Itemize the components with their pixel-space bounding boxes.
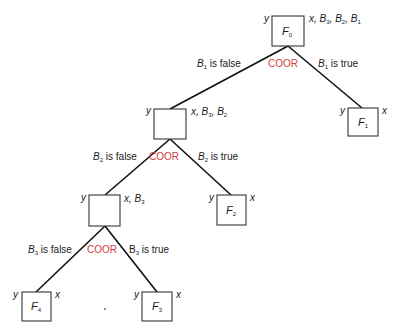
output-vars-label: x, B3, B2, B1 xyxy=(308,13,361,25)
input-y-label: y xyxy=(145,105,152,116)
split-2: COOR B2 is false B2 is true xyxy=(93,151,238,163)
false-branch-label: B1 is false xyxy=(197,58,241,70)
output-vars-label: x, B3 xyxy=(123,193,145,205)
edge-n2-to-f2 xyxy=(170,139,231,195)
true-branch-label: B2 is true xyxy=(198,151,238,163)
edge-n3-to-f4 xyxy=(36,226,105,292)
output-x-label: x xyxy=(249,192,256,203)
false-branch-label: B2 is false xyxy=(93,151,137,163)
input-y-label: y xyxy=(12,289,19,300)
output-x-label: x xyxy=(54,289,61,300)
coor-label: COOR xyxy=(149,151,179,162)
tree-edges xyxy=(36,46,362,292)
node-box xyxy=(89,195,120,226)
node-box xyxy=(154,109,186,139)
node-f2: F2 y x xyxy=(208,192,256,225)
coor-label: COOR xyxy=(87,244,117,255)
input-y-label: y xyxy=(133,289,140,300)
input-y-label: y xyxy=(339,105,346,116)
input-y-label: y xyxy=(208,192,215,203)
output-vars-label: x, B3, B2 xyxy=(190,106,228,118)
false-branch-label: B3 is false xyxy=(28,244,72,256)
split-1: COOR B1 is false B1 is true xyxy=(197,58,358,70)
edge-f0-to-n2 xyxy=(170,46,288,109)
input-y-label: y xyxy=(80,192,87,203)
split-3: COOR B3 is false B3 is true xyxy=(28,244,169,256)
true-branch-label: B3 is true xyxy=(129,244,169,256)
node-intermediate-2: y x, B3 xyxy=(80,192,145,226)
edge-n3-to-f3 xyxy=(105,226,157,292)
node-f0: F0 y x, B3, B2, B1 xyxy=(263,13,361,46)
edge-n2-to-n3 xyxy=(105,139,170,195)
node-f1: F1 y x xyxy=(339,105,388,136)
true-branch-label: B1 is true xyxy=(318,58,358,70)
node-f3: F3 y x xyxy=(133,289,182,321)
output-x-label: x xyxy=(175,289,182,300)
edge-f0-to-f1 xyxy=(288,46,362,108)
input-y-label: y xyxy=(263,13,270,24)
coor-label: COOR xyxy=(268,58,298,69)
stray-dot xyxy=(104,308,106,310)
coor-decision-tree: F0 y x, B3, B2, B1 COOR B1 is false B1 i… xyxy=(0,0,399,334)
node-f4: F4 y x xyxy=(12,289,61,321)
node-intermediate-1: y x, B3, B2 xyxy=(145,105,228,139)
output-x-label: x xyxy=(381,105,388,116)
